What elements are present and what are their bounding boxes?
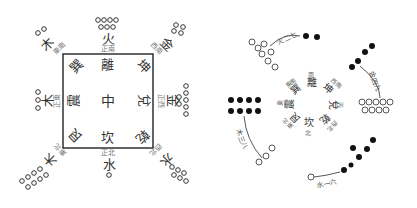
direction-bottom: 正北 [101,150,115,157]
luoshu-square-diagram: 巽 離 坤 震 中 兌 艮 坎 乾 火 木 金 木 金 木 水 水 正南 東南 … [0,0,210,208]
ring-char: 西 [337,102,343,108]
ring-char: 東 [277,100,283,106]
trigram-left: 震 [67,94,80,107]
ring-char: 震 [285,99,295,109]
spiral-arms-graphic [210,0,417,208]
element-top: 火 [102,32,115,45]
element-bottom: 水 [103,158,116,171]
element-right: 金 [167,94,180,107]
trigram-top: 離 [101,58,114,71]
ring-char: 南 [308,72,314,78]
ring-char: 坎 [304,118,314,128]
direction-right: 正西 [157,94,164,108]
trigram-right: 兌 [138,94,151,107]
ring-char: 離 [307,78,317,88]
trigram-bottom: 坎 [101,131,114,144]
ring-char: 北 [305,130,311,136]
direction-top: 正南 [101,46,115,53]
trigram-center: 中 [101,94,115,108]
spiral-diagram: 火二七 金四九 水一六 木三八 離 南 坤 西南 兌 西 乾 西北 坎 北 艮 … [210,0,417,208]
dots-top [96,18,119,30]
direction-left: 正東 [54,94,61,108]
